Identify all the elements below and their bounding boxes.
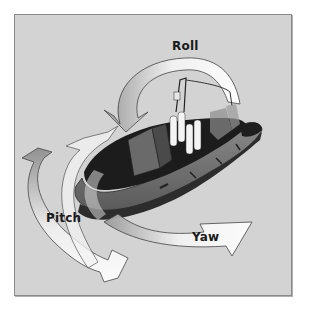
yaw-label: Yaw bbox=[192, 230, 219, 244]
yaw-arrow bbox=[104, 214, 252, 256]
boat-diagram bbox=[0, 0, 310, 330]
pitch-label: Pitch bbox=[46, 211, 81, 225]
roll-label: Roll bbox=[172, 39, 199, 53]
